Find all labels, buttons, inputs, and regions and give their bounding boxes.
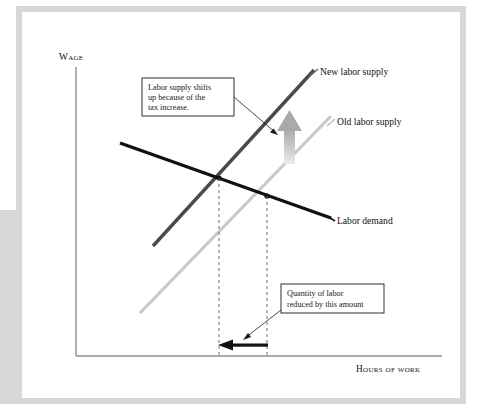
old-labor-supply-label: Old labor supply <box>337 116 402 127</box>
labor-demand-label-group: Labor demand <box>327 215 393 226</box>
supply-shift-line2: up because of the <box>148 93 205 102</box>
labor-market-diagram: Wage Hours of work Labor supply shifts u… <box>0 0 478 415</box>
quantity-reduction-line2: reduced by this amount <box>287 300 364 309</box>
x-axis-label: Hours of work <box>356 364 420 374</box>
figure-root: Wage Hours of work Labor supply shifts u… <box>0 0 478 415</box>
old-labor-supply-label-group: Old labor supply <box>327 116 402 127</box>
y-axis-label: Wage <box>59 52 83 62</box>
frame-left-extension <box>0 210 16 404</box>
labor-demand-label: Labor demand <box>337 215 393 226</box>
quantity-reduction-line1: Quantity of labor <box>287 289 344 298</box>
new-labor-supply-label-group: New labor supply <box>310 66 388 77</box>
new-labor-supply-label: New labor supply <box>320 66 388 77</box>
supply-shift-line1: Labor supply shifts <box>148 83 211 92</box>
figure-card <box>22 12 460 398</box>
supply-shift-line3: tax increase. <box>148 103 189 112</box>
frame-bottom-gap <box>0 404 478 415</box>
